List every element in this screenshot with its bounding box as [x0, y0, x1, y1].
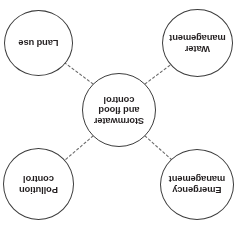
- node-emergency-management[interactable]: Emergency management: [160, 149, 234, 220]
- node-stormwater-and-flood-control-label: Stormwater and flood control: [85, 94, 153, 127]
- diagram-rotated-layer: Emergency management Pollution control W…: [0, 0, 236, 226]
- node-land-use-label: Land use: [6, 38, 72, 49]
- node-stormwater-and-flood-control[interactable]: Stormwater and flood control: [82, 73, 156, 147]
- connector-center-to-land-use: [65, 63, 93, 84]
- node-pollution-control[interactable]: Pollution control: [3, 148, 74, 220]
- connector-center-to-water-management: [145, 63, 173, 84]
- node-water-management-label: Water management: [165, 32, 231, 54]
- node-land-use[interactable]: Land use: [4, 10, 73, 76]
- node-emergency-management-label: Emergency management: [164, 174, 230, 196]
- connector-center-to-emergency-management: [145, 136, 172, 160]
- node-pollution-control-label: Pollution control: [6, 173, 72, 195]
- diagram-canvas: Emergency management Pollution control W…: [0, 0, 236, 226]
- connector-center-to-pollution-control: [65, 136, 93, 160]
- node-water-management[interactable]: Water management: [162, 9, 233, 77]
